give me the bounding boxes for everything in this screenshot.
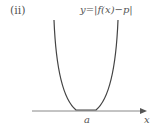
x-axis-label: x	[144, 114, 150, 125]
graph	[0, 0, 157, 130]
curve	[54, 20, 118, 110]
point-a-label: a	[84, 114, 90, 125]
